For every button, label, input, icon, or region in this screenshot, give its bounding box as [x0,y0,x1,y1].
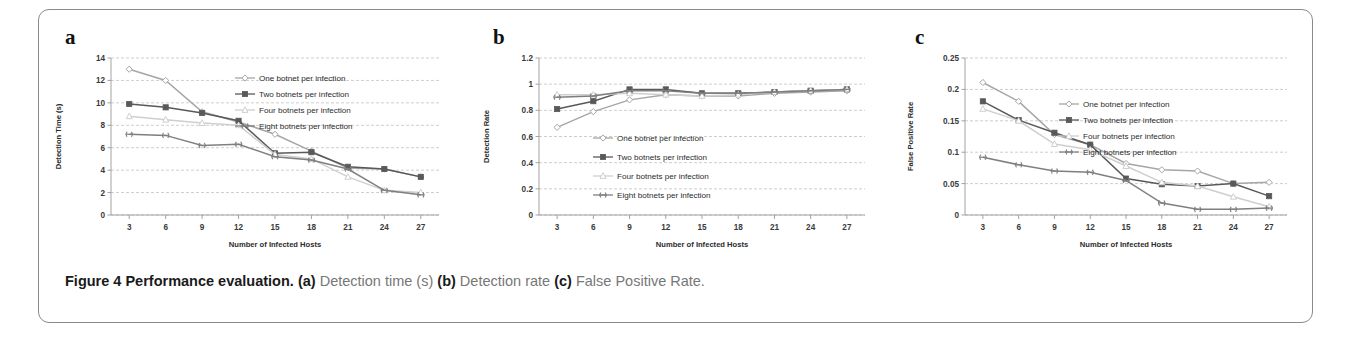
svg-text:15: 15 [270,223,280,232]
svg-text:One botnet per infection: One botnet per infection [1083,100,1169,109]
svg-text:Number of Infected Hosts: Number of Infected Hosts [229,240,321,249]
svg-text:6: 6 [591,223,596,232]
caption-text-a: Detection time (s) [320,273,434,289]
svg-text:Number of Infected Hosts: Number of Infected Hosts [1080,240,1172,249]
caption-text-b: Detection rate [460,273,550,289]
svg-text:10: 10 [96,99,106,108]
svg-text:3: 3 [981,223,986,232]
figure-frame: a 02468101214369121518212427Number of In… [38,9,1313,323]
svg-text:0.2: 0.2 [948,85,960,94]
caption-label-a: (a) [298,273,316,289]
svg-text:0.4: 0.4 [522,159,534,168]
chart-svg-b: 00.20.40.60.811.2369121518212427Number o… [467,10,892,265]
chart-panel-c: c 00.050.10.150.20.25369121518212427Numb… [889,10,1314,265]
svg-text:8: 8 [100,121,105,130]
figure-caption: Figure 4 Performance evaluation. (a) Det… [65,272,1295,292]
figure-panels: a 02468101214369121518212427Number of In… [39,10,1314,265]
caption-label-c: (c) [554,273,572,289]
caption-label-b: (b) [437,273,456,289]
svg-text:18: 18 [734,223,744,232]
chart-panel-a: a 02468101214369121518212427Number of In… [39,10,464,265]
svg-text:Eight botnets per infection: Eight botnets per infection [259,122,353,131]
chart-panel-b: b 00.20.40.60.811.2369121518212427Number… [467,10,892,265]
svg-text:Four botnets per infection: Four botnets per infection [1083,132,1175,141]
svg-text:6: 6 [163,223,168,232]
svg-text:21: 21 [1193,223,1203,232]
svg-text:3: 3 [555,223,560,232]
svg-text:0.1: 0.1 [948,148,960,157]
svg-text:0.15: 0.15 [943,117,959,126]
svg-text:0: 0 [954,211,959,220]
svg-text:6: 6 [1016,223,1021,232]
svg-text:0: 0 [100,211,105,220]
svg-text:9: 9 [1052,223,1057,232]
svg-text:15: 15 [697,223,707,232]
svg-text:Detection Time (s): Detection Time (s) [54,103,63,169]
svg-text:Two botnets per infection: Two botnets per infection [259,90,349,99]
svg-text:18: 18 [307,223,317,232]
svg-text:1: 1 [528,80,533,89]
caption-text-c: False Positive Rate. [576,273,705,289]
svg-text:24: 24 [1229,223,1239,232]
svg-text:Four botnets per infection: Four botnets per infection [259,106,351,115]
svg-text:0: 0 [528,211,533,220]
svg-text:False Positive Rate: False Positive Rate [906,102,915,171]
svg-text:Two botnets per infection: Two botnets per infection [1083,116,1173,125]
svg-text:Detection Rate: Detection Rate [482,110,491,163]
svg-text:12: 12 [1086,223,1096,232]
panel-letter-c: c [915,25,924,50]
svg-text:12: 12 [234,223,244,232]
caption-prefix: Figure 4 Performance evaluation. [65,273,294,289]
svg-text:27: 27 [842,223,852,232]
chart-svg-a: 02468101214369121518212427Number of Infe… [39,10,464,265]
svg-text:12: 12 [661,223,671,232]
svg-text:21: 21 [770,223,780,232]
svg-text:9: 9 [627,223,632,232]
svg-text:24: 24 [380,223,390,232]
svg-text:1.2: 1.2 [522,54,534,63]
svg-text:0.8: 0.8 [522,106,534,115]
svg-text:24: 24 [806,223,816,232]
svg-text:Eight botnets per infection: Eight botnets per infection [1083,148,1177,157]
svg-text:12: 12 [96,76,106,85]
svg-text:6: 6 [100,144,105,153]
svg-text:15: 15 [1121,223,1131,232]
svg-text:0.6: 0.6 [522,133,534,142]
svg-text:9: 9 [200,223,205,232]
svg-text:Four botnets per infection: Four botnets per infection [617,172,709,181]
svg-text:Number of Infected Hosts: Number of Infected Hosts [656,240,748,249]
svg-text:0.05: 0.05 [943,180,959,189]
svg-text:2: 2 [100,189,105,198]
svg-text:One botnet per infection: One botnet per infection [617,134,703,143]
svg-text:27: 27 [416,223,426,232]
svg-text:Eight botnets per infection: Eight botnets per infection [617,191,711,200]
svg-text:0.25: 0.25 [943,54,959,63]
svg-text:0.2: 0.2 [522,185,534,194]
svg-text:14: 14 [96,54,106,63]
svg-text:4: 4 [100,166,105,175]
panel-letter-a: a [65,25,76,50]
svg-text:21: 21 [343,223,353,232]
panel-letter-b: b [493,25,505,50]
svg-text:3: 3 [127,223,132,232]
svg-text:One botnet per infection: One botnet per infection [259,74,345,83]
chart-svg-c: 00.050.10.150.20.25369121518212427Number… [889,10,1314,265]
svg-text:27: 27 [1265,223,1275,232]
svg-text:Two botnets per infection: Two botnets per infection [617,153,707,162]
svg-text:18: 18 [1157,223,1167,232]
